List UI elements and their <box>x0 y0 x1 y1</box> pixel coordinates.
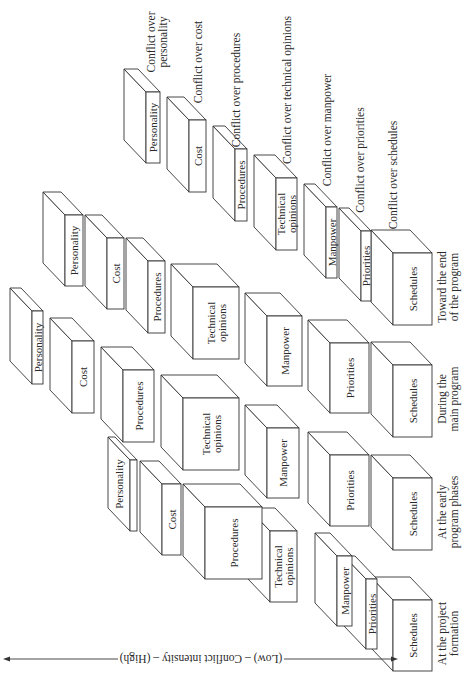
box-label: Priorities <box>344 358 356 398</box>
conflict-legend-label: personality <box>157 16 170 67</box>
box-label: opinions <box>216 304 228 342</box>
box-label: Priorities <box>366 594 378 634</box>
phase-caption: main program <box>448 367 461 432</box>
box-label: Procedures <box>151 273 163 322</box>
conflict-legend-label: Conflict over manpower <box>321 74 334 187</box>
conflict-box <box>50 318 94 413</box>
conflict-intensity-diagram: SchedulesPrioritiesManpowerTechnicalopin… <box>0 0 470 681</box>
conflict-box <box>85 215 124 309</box>
conflict-box <box>140 461 181 555</box>
conflict-box <box>245 293 302 386</box>
box-label: Manpower <box>277 439 289 487</box>
conflict-box <box>308 432 369 526</box>
box-label: Manpower <box>326 218 338 266</box>
box-label: Priorities <box>344 470 356 510</box>
box-label: Cost <box>110 263 122 283</box>
conflict-box <box>371 577 432 671</box>
conflict-box <box>183 484 262 579</box>
box-label: Personality <box>32 322 44 372</box>
conflict-box <box>371 455 432 550</box>
box-front-face <box>130 460 137 531</box>
staircase-boxes <box>10 69 432 671</box>
conflict-box <box>167 97 206 192</box>
box-label: Schedules <box>407 379 419 424</box>
box-label: Schedules <box>407 267 419 312</box>
conflict-legend-label: Conflict over priorities <box>354 107 367 213</box>
conflict-legend-label: Conflict over <box>145 11 157 72</box>
conflict-legend-label: Conflict over cost <box>192 20 204 103</box>
phase-caption: Toward the end <box>436 251 448 323</box>
phase-caption: formation <box>448 611 460 657</box>
conflict-box <box>245 405 299 498</box>
box-label: Personality <box>147 102 159 152</box>
axis-label: (Low) – Conflict intensity – (High) <box>120 652 283 665</box>
box-label: Cost <box>77 367 89 387</box>
box-label: Procedures <box>133 382 145 431</box>
box-label: Schedules <box>407 613 419 658</box>
conflict-legend-label: Conflict over technical opinions <box>281 16 294 164</box>
box-label: Cost <box>166 509 178 529</box>
conflict-box <box>371 230 432 325</box>
conflict-box <box>371 342 432 437</box>
box-label: opinions <box>283 548 295 586</box>
box-label: Procedures <box>235 161 247 210</box>
box-label: Procedures <box>228 519 240 568</box>
box-label: Personality <box>113 459 125 509</box>
arrow-left-icon <box>3 657 10 662</box>
intensity-axis: (Low) – Conflict intensity – (High) <box>3 651 398 667</box>
conflict-box <box>308 320 369 413</box>
box-label: Manpower <box>339 567 351 615</box>
box-label: Schedules <box>407 492 419 537</box>
box-label: Manpower <box>279 327 291 375</box>
conflict-box <box>101 347 154 442</box>
box-label: opinions <box>286 195 298 233</box>
phase-caption: program phases <box>448 475 461 548</box>
box-label: Personality <box>68 225 80 275</box>
conflict-legend-label: Conflict over schedules <box>387 120 399 229</box>
box-label: opinions <box>211 415 223 453</box>
phase-captions: Toward the endof the programDuring thema… <box>436 251 461 665</box>
conflict-legend-label: Conflict over procedures <box>230 32 243 147</box>
box-label: Priorities <box>360 246 372 286</box>
box-label: Cost <box>192 146 204 166</box>
phase-caption: of the program <box>448 253 461 321</box>
